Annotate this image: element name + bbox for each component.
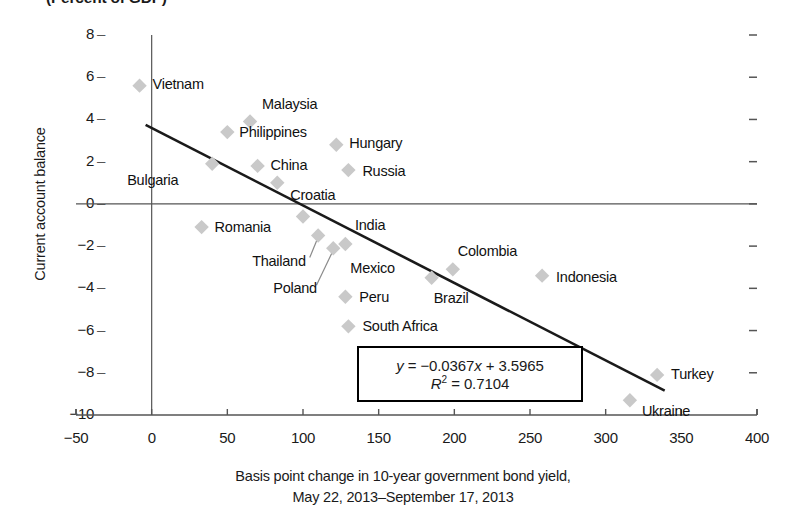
label-leader-line bbox=[316, 252, 332, 285]
data-point-label: Philippines bbox=[239, 124, 306, 140]
data-point-label: Poland bbox=[273, 280, 317, 296]
data-point-marker bbox=[535, 268, 549, 282]
r2-equals: = bbox=[451, 375, 460, 392]
data-point-label: Romania bbox=[215, 219, 271, 235]
regression-equation: y = −0.0367x + 3.5965 bbox=[396, 357, 544, 374]
data-point-label: Thailand bbox=[252, 253, 306, 269]
eq-equals: = bbox=[408, 357, 417, 374]
r2-exponent: 2 bbox=[442, 374, 447, 385]
data-point-marker bbox=[341, 163, 355, 177]
r2-number: 0.7104 bbox=[464, 375, 509, 392]
data-point-marker bbox=[326, 241, 340, 255]
data-point-label: Hungary bbox=[349, 135, 402, 151]
data-point-label: Indonesia bbox=[556, 269, 617, 285]
data-point-marker bbox=[250, 159, 264, 173]
r2-symbol: R bbox=[431, 375, 442, 392]
data-point-marker bbox=[650, 368, 664, 382]
eq-x-symbol: x bbox=[474, 357, 481, 374]
data-point-marker bbox=[338, 290, 352, 304]
data-point-label: Croatia bbox=[290, 187, 335, 203]
data-point-marker bbox=[205, 157, 219, 171]
regression-equation-box: y = −0.0367x + 3.5965 R2 = 0.7104 bbox=[357, 346, 583, 402]
scatter-chart: (Percent of GDP) Current account balance… bbox=[0, 0, 806, 524]
data-point-marker bbox=[311, 228, 325, 242]
data-point-label: Vietnam bbox=[153, 76, 204, 92]
data-point-label: Bulgaria bbox=[127, 172, 178, 188]
data-point-marker bbox=[341, 319, 355, 333]
data-point-label: Mexico bbox=[350, 260, 394, 276]
data-point-label: Ukraine bbox=[642, 403, 690, 419]
eq-intercept: + 3.5965 bbox=[486, 357, 544, 374]
data-point-label: Russia bbox=[362, 163, 405, 179]
data-point-marker bbox=[446, 262, 460, 276]
data-point-label: Turkey bbox=[671, 366, 713, 382]
data-point-marker bbox=[338, 237, 352, 251]
plot-area bbox=[0, 0, 806, 524]
data-point-marker bbox=[220, 125, 234, 139]
data-point-marker bbox=[623, 393, 637, 407]
data-point-label: Colombia bbox=[458, 243, 517, 259]
data-point-marker bbox=[132, 78, 146, 92]
data-point-label: Peru bbox=[359, 289, 389, 305]
data-point-label: Brazil bbox=[434, 290, 469, 306]
eq-slope: −0.0367 bbox=[420, 357, 474, 374]
data-point-marker bbox=[270, 176, 284, 190]
data-point-label: China bbox=[271, 157, 308, 173]
r-squared-value: R2 = 0.7104 bbox=[431, 374, 509, 392]
data-point-label: Malaysia bbox=[262, 96, 317, 112]
data-point-label: South Africa bbox=[362, 318, 437, 334]
data-point-marker bbox=[296, 209, 310, 223]
label-leader-line bbox=[310, 240, 317, 258]
data-point-marker bbox=[194, 220, 208, 234]
data-point-marker bbox=[329, 138, 343, 152]
eq-y-symbol: y bbox=[396, 357, 403, 374]
data-point-label: India bbox=[355, 217, 385, 233]
